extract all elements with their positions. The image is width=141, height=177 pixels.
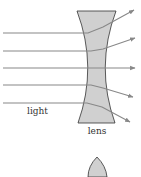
light-label: light (27, 106, 48, 116)
ray-2 (3, 38, 135, 51)
convex-lens-partial (88, 157, 107, 177)
ray-4 (3, 85, 133, 97)
light-rays (3, 10, 135, 122)
concave-lens (77, 11, 116, 123)
lens-label: lens (88, 126, 107, 136)
lens-diagram: light lens (0, 0, 141, 177)
